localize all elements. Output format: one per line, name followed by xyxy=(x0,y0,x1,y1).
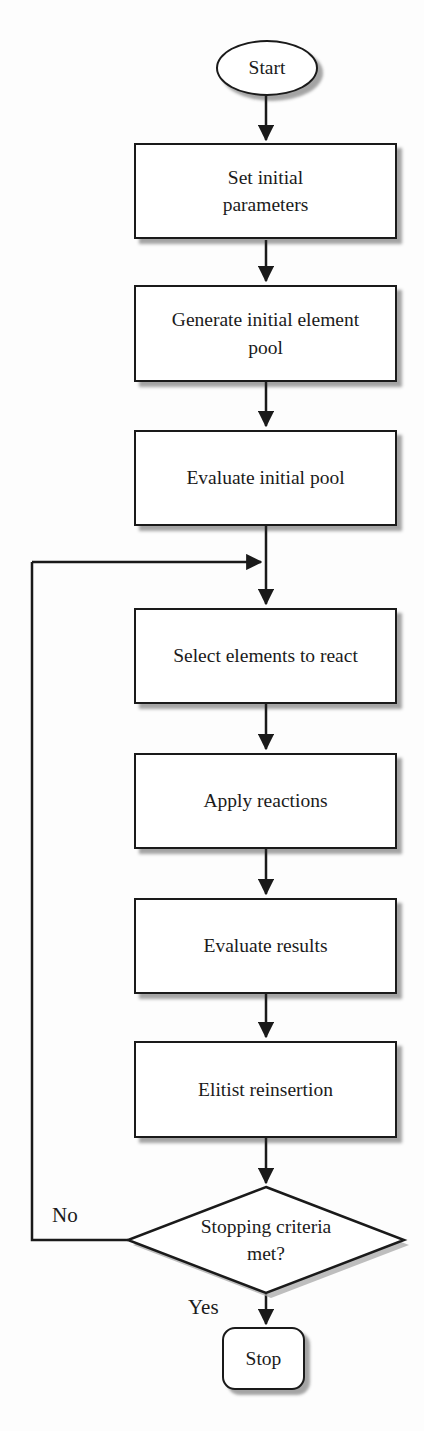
edge-decision-no-loop xyxy=(32,562,128,1240)
node-elitist-reinsertion-label: Elitist reinsertion xyxy=(190,1076,341,1103)
node-evaluate-results: Evaluate results xyxy=(134,898,397,994)
node-set-initial-parameters: Set initial parameters xyxy=(134,143,397,239)
node-stop: Stop xyxy=(222,1327,305,1390)
node-generate-initial-element-pool-label: Generate initial element pool xyxy=(164,306,367,361)
edge-label-no: No xyxy=(52,1203,78,1228)
node-set-initial-parameters-label: Set initial parameters xyxy=(215,164,317,219)
node-generate-initial-element-pool: Generate initial element pool xyxy=(134,285,397,382)
node-start: Start xyxy=(216,40,318,96)
node-stop-label: Stop xyxy=(238,1345,290,1372)
node-evaluate-initial-pool: Evaluate initial pool xyxy=(134,430,397,526)
node-evaluate-results-label: Evaluate results xyxy=(196,932,336,959)
flowchart-page: Start Set initial parameters Generate in… xyxy=(0,0,424,1431)
edge-label-yes: Yes xyxy=(188,1295,219,1320)
node-evaluate-initial-pool-label: Evaluate initial pool xyxy=(178,464,352,491)
node-select-elements-to-react-label: Select elements to react xyxy=(165,642,366,669)
node-apply-reactions: Apply reactions xyxy=(134,753,397,849)
node-select-elements-to-react: Select elements to react xyxy=(134,608,397,704)
node-apply-reactions-label: Apply reactions xyxy=(195,787,335,814)
node-stopping-criteria-label: Stopping criteria met? xyxy=(151,1208,381,1272)
node-start-label: Start xyxy=(241,54,294,81)
node-elitist-reinsertion: Elitist reinsertion xyxy=(134,1041,397,1138)
